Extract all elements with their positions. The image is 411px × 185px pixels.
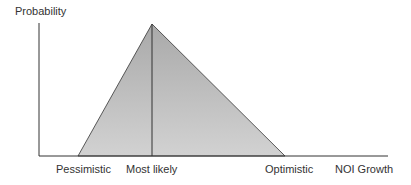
pessimistic-label: Pessimistic xyxy=(56,163,111,175)
most-likely-label: Most likely xyxy=(126,163,177,175)
distribution-diagram xyxy=(0,0,411,185)
optimistic-label: Optimistic xyxy=(265,163,313,175)
y-axis-label: Probability xyxy=(15,5,66,17)
x-axis-label: NOI Growth xyxy=(335,163,393,175)
triangle-distribution xyxy=(78,24,285,156)
